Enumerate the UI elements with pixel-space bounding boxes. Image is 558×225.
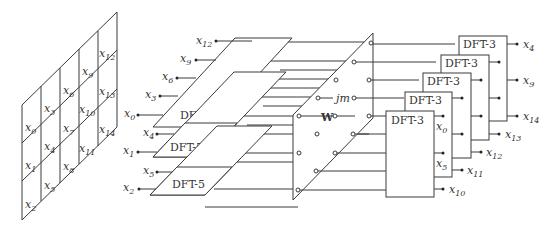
svg-text:x1: x1 bbox=[123, 144, 134, 159]
svg-text:x5: x5 bbox=[143, 164, 154, 179]
twiddle-symbol: W bbox=[320, 111, 334, 124]
input-grid: x0 x1 x2 x3 x4 x5 x6 x7 x8 x9 x10 x11 x1… bbox=[22, 12, 117, 220]
svg-text:DFT-3: DFT-3 bbox=[427, 75, 460, 88]
svg-text:x14: x14 bbox=[523, 110, 539, 125]
svg-text:DFT-3: DFT-3 bbox=[391, 114, 424, 127]
dft5-block-bottom: DFT-5 bbox=[150, 126, 272, 195]
svg-text:x11: x11 bbox=[467, 164, 483, 179]
svg-text:x9: x9 bbox=[180, 52, 191, 67]
dft5-label: DFT-5 bbox=[172, 178, 205, 191]
svg-text:DFT-3: DFT-3 bbox=[463, 38, 496, 51]
svg-text:x0: x0 bbox=[124, 107, 135, 122]
svg-text:x3: x3 bbox=[145, 88, 156, 103]
dft-15-diagram: x0 x1 x2 x3 x4 x5 x6 x7 x8 x9 x10 x11 x1… bbox=[0, 0, 558, 225]
svg-text:x12: x12 bbox=[486, 146, 502, 161]
svg-text:x2: x2 bbox=[123, 181, 134, 196]
svg-text:x9: x9 bbox=[523, 74, 534, 89]
twiddle-exponent: jm bbox=[333, 92, 350, 105]
svg-text:x12: x12 bbox=[196, 34, 212, 49]
svg-text:x4: x4 bbox=[523, 38, 534, 53]
svg-text:x6: x6 bbox=[162, 70, 173, 85]
svg-text:DFT-3: DFT-3 bbox=[409, 94, 442, 107]
svg-text:x10: x10 bbox=[449, 183, 465, 198]
svg-text:x4: x4 bbox=[143, 126, 154, 141]
svg-text:x13: x13 bbox=[505, 128, 521, 143]
svg-text:DFT-3: DFT-3 bbox=[445, 57, 478, 70]
